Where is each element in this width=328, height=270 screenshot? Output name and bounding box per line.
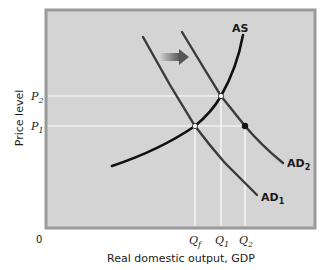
equilibrium-point-new <box>218 93 223 98</box>
q2-tick-label: Q2 <box>239 234 253 249</box>
as-label: AS <box>232 22 249 35</box>
ad-as-diagram: AS AD2 AD1 P2 P1 Price level 0 Qf Q1 Q2 … <box>0 0 328 270</box>
equilibrium-point-initial <box>192 123 197 128</box>
p2-tick-label: P2 <box>30 90 44 105</box>
q1-tick-label: Q1 <box>215 234 229 249</box>
qf-tick-label: Qf <box>189 234 203 249</box>
origin-label: 0 <box>36 234 42 245</box>
point-q2-p1 <box>242 123 248 129</box>
y-axis-title: Price level <box>13 90 26 147</box>
p1-tick-label: P1 <box>30 120 44 135</box>
x-axis-title: Real domestic output, GDP <box>107 252 255 265</box>
